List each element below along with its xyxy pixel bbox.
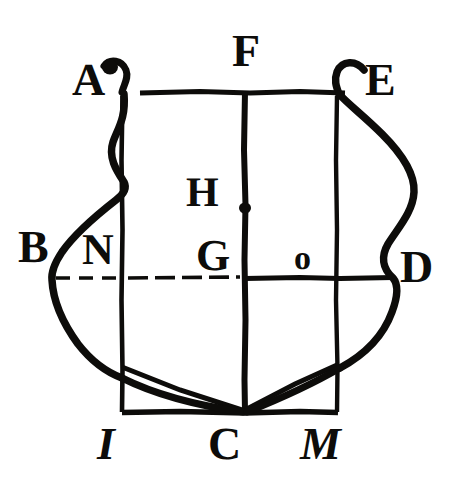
- vertex-label-B: B: [18, 224, 49, 270]
- fess-line-right: [245, 278, 393, 279]
- right-base-sweep: [247, 368, 340, 412]
- left-vertical-AI: [122, 96, 123, 412]
- honour-point-dot: [239, 203, 251, 214]
- volute-hook-E: [336, 63, 364, 94]
- vertex-label-I: I: [97, 421, 115, 467]
- palar-line-FC: [244, 92, 246, 412]
- vertex-label-A: A: [72, 57, 105, 103]
- vertex-label-N: N: [82, 228, 114, 272]
- vertex-label-M: M: [300, 421, 341, 467]
- vertex-label-H: H: [186, 172, 219, 214]
- diagonal-right-to-C: [245, 365, 337, 410]
- vertex-label-E: E: [365, 57, 396, 103]
- vertex-label-D: D: [400, 244, 433, 290]
- vertex-label-G: G: [196, 234, 230, 278]
- vertex-label-F: F: [232, 28, 260, 74]
- vertex-label-C: C: [208, 421, 241, 467]
- shield-construction-figure: A F E H B N G o D I C M: [0, 0, 459, 485]
- left-base-sweep: [122, 378, 243, 412]
- right-flank-curve: [339, 94, 414, 368]
- vertex-label-O: o: [294, 242, 311, 276]
